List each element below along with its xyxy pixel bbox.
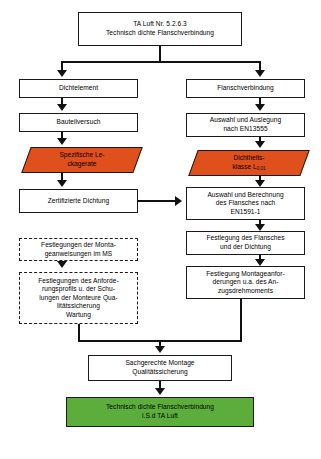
flowchart-diagram: TA Luft Nr. 5.2.6.3 Technisch dichte Fla…: [0, 0, 321, 459]
dichtheitsklasse-label: Dichtheits-klasse L0.01: [222, 154, 275, 172]
arrow-to-zertifizierte-dichtung: [57, 180, 67, 187]
leckagerate-label: Spezifische Le- ckagerate: [49, 151, 114, 168]
node-bauteilversuch: Bauteilversuch: [19, 113, 138, 132]
dichtheitsklasse-subscript: 0.01: [257, 166, 266, 171]
connector-title-down: [159, 46, 161, 62]
node-result-technisch-dichte-flanschverbindung: Technisch dichte Flanschverbindung i.S.d…: [66, 397, 254, 427]
node-festlegung-flansches-dichtung: Festlegung des Flansches und der Dichtun…: [186, 231, 305, 255]
node-auswahl-berechnung-en1591: Auswahl und Berechnung des Flansches nac…: [186, 187, 305, 220]
connector-split-bus: [61, 61, 261, 63]
node-montageanweisungen: Festlegungen der Monta- geanweisungen im…: [19, 238, 138, 261]
node-dichtheitsklasse: Dichtheits-klasse L0.01: [193, 150, 305, 176]
dichtheitsklasse-line2: klasse L: [232, 163, 256, 170]
arrow-to-festlegung-flansches: [255, 224, 265, 231]
connector-left-merge-down: [78, 324, 80, 341]
arrow-to-auswahl-auslegung: [255, 104, 265, 111]
arrow-to-leckagerate: [57, 138, 67, 145]
connector-right-merge-down: [240, 299, 242, 341]
node-auswahl-auslegung-en13555: Auswahl und Auslegung nach EN13555: [186, 113, 305, 137]
node-anforderungsprofil: Festlegungen des Anforde- rungsprofils u…: [19, 272, 138, 324]
arrow-to-result: [155, 388, 165, 395]
arrow-to-auswahl-berechnung: [255, 180, 265, 187]
arrow-to-sachgerechte-montage: [155, 346, 165, 353]
connector-dichtung-to-berechnung: [138, 200, 180, 202]
arrow-to-flanschverbindung: [255, 70, 265, 77]
node-flanschverbindung: Flanschverbindung: [186, 79, 305, 98]
node-festlegung-montageanforderungen: Festlegung Montageanfor- derungen u.a. d…: [186, 266, 305, 299]
node-dichtelement: Dichtelement: [19, 79, 138, 98]
node-spezifische-leckagerate: Spezifische Le- ckagerate: [26, 147, 138, 173]
arrow-to-dichtheitsklasse: [255, 141, 265, 148]
node-sachgerechte-montage: Sachgerechte Montage Qualitätssicherung: [88, 355, 232, 381]
arrow-to-dichtelement: [57, 70, 67, 77]
node-zertifizierte-dichtung: Zertifizierte Dichtung: [19, 189, 138, 213]
dichtheitsklasse-line1: Dichtheits-: [233, 154, 264, 161]
arrow-to-bauteilversuch: [57, 104, 67, 111]
arrow-to-montageanforderungen: [255, 259, 265, 266]
node-ta-luft-title: TA Luft Nr. 5.2.6.3 Technisch dichte Fla…: [78, 12, 242, 46]
arrow-montageanweisungen-down: [57, 261, 67, 268]
arrow-dichtung-to-berechnung: [175, 196, 182, 206]
